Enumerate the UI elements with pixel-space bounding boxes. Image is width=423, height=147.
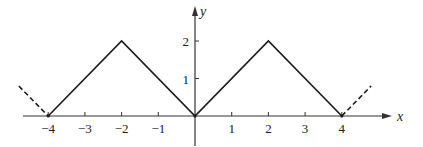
x-tick-label: −3 [78, 121, 92, 136]
y-tick-label: 1 [183, 72, 190, 87]
y-ticks: 12 [183, 34, 200, 87]
triangle-wave-chart: −4−3−2−11234 12 x y [0, 0, 423, 147]
x-axis-label: x [396, 109, 404, 124]
x-tick-label: 1 [228, 121, 235, 136]
y-axis-label: y [198, 4, 207, 19]
x-tick-label: 3 [302, 121, 309, 136]
dashed-continuation-line [19, 86, 48, 116]
dashed-continuation-line [342, 86, 371, 116]
y-axis-arrow-icon [192, 6, 198, 16]
x-tick-label: 4 [339, 121, 346, 136]
x-axis-arrow-icon [382, 113, 392, 119]
y-tick-label: 2 [183, 34, 190, 49]
vertex-dot [340, 114, 343, 117]
x-tick-label: −2 [115, 121, 129, 136]
y-axis [192, 6, 198, 146]
x-tick-label: −4 [41, 121, 55, 136]
x-tick-label: −1 [151, 121, 165, 136]
vertex-dot [193, 114, 196, 117]
vertex-dot [47, 114, 50, 117]
x-tick-label: 2 [265, 121, 272, 136]
x-axis [23, 113, 392, 119]
